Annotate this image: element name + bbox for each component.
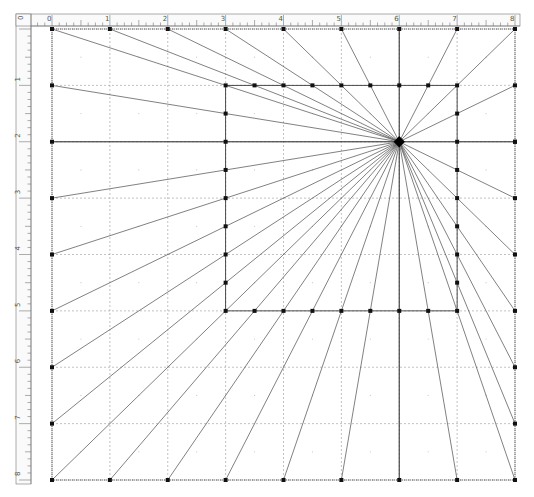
outer-frame-point	[397, 27, 401, 31]
grid-dot	[254, 113, 255, 114]
horizon-point	[513, 140, 517, 144]
grid-dot	[138, 338, 139, 339]
outer-frame-point	[50, 422, 54, 426]
grid-dot	[370, 338, 371, 339]
outer-frame-point	[224, 27, 228, 31]
grid-dot	[428, 338, 429, 339]
top-ruler-label: 0	[47, 15, 51, 23]
grid-dot	[485, 451, 486, 452]
grid-dot	[80, 169, 81, 170]
inner-rect-point	[397, 83, 401, 87]
left-ruler-label: 8	[14, 472, 22, 476]
inner-rect-point	[368, 309, 372, 313]
inner-rect-point	[455, 253, 459, 257]
inner-rect-point	[224, 196, 228, 200]
outer-frame-point	[513, 365, 517, 369]
inner-rect-point	[310, 83, 314, 87]
outer-frame-point	[50, 27, 54, 31]
outer-frame-point	[513, 83, 517, 87]
grid-dot	[196, 57, 197, 58]
grid-dot	[370, 282, 371, 283]
inner-rect-point	[224, 309, 228, 313]
left-ruler-label: 3	[14, 190, 22, 194]
grid-dot	[485, 338, 486, 339]
inner-rect-point	[397, 309, 401, 313]
grid-dot	[138, 451, 139, 452]
grid-dot	[196, 113, 197, 114]
grid-dot	[485, 169, 486, 170]
ruler-corner-label: 0	[17, 16, 25, 20]
top-ruler-label: 5	[336, 15, 340, 23]
grid-dot	[80, 57, 81, 58]
grid-dot	[370, 451, 371, 452]
grid-dot	[254, 57, 255, 58]
outer-frame-point	[50, 309, 54, 313]
inner-rect-point	[224, 83, 228, 87]
left-ruler-label: 5	[14, 302, 22, 306]
left-ruler-label: 4	[14, 246, 22, 251]
outer-frame-point	[50, 478, 54, 482]
inner-rect-point	[224, 140, 228, 144]
inner-rect-point	[368, 83, 372, 87]
top-ruler-label: 3	[221, 15, 225, 23]
grid-dot	[196, 282, 197, 283]
inner-rect-point	[426, 83, 430, 87]
outer-frame-point	[513, 253, 517, 257]
outer-frame-point	[166, 478, 170, 482]
grid-dot	[196, 395, 197, 396]
grid-dot	[312, 451, 313, 452]
grid-dot	[138, 113, 139, 114]
top-ruler-label: 7	[452, 15, 456, 23]
top-ruler-label: 4	[279, 15, 284, 23]
top-ruler-label: 2	[163, 15, 167, 23]
grid-dot	[80, 113, 81, 114]
outer-frame-point	[513, 478, 517, 482]
outer-frame-point	[455, 478, 459, 482]
outer-frame-point	[282, 478, 286, 482]
grid-dot	[370, 395, 371, 396]
outer-frame-point	[513, 27, 517, 31]
outer-frame-point	[513, 422, 517, 426]
grid-dot	[254, 338, 255, 339]
outer-frame-point	[50, 83, 54, 87]
inner-rect-point	[310, 309, 314, 313]
inner-rect-point	[426, 309, 430, 313]
inner-rect-point	[455, 168, 459, 172]
grid-dot	[485, 113, 486, 114]
inner-rect-point	[224, 168, 228, 172]
outer-frame-point	[513, 309, 517, 313]
grid-dot	[196, 169, 197, 170]
outer-frame-point	[108, 27, 112, 31]
grid-dot	[80, 395, 81, 396]
left-ruler-label: 1	[14, 77, 22, 81]
outer-frame-point	[50, 365, 54, 369]
outer-frame-point	[455, 27, 459, 31]
perspective-diagram: 001234567812345678	[0, 0, 534, 497]
grid-dot	[312, 338, 313, 339]
outer-frame-point	[513, 196, 517, 200]
top-ruler	[16, 14, 520, 26]
outer-frame-point	[166, 27, 170, 31]
grid-dot	[196, 226, 197, 227]
inner-rect-point	[282, 83, 286, 87]
inner-rect-point	[455, 112, 459, 116]
grid-dot	[428, 395, 429, 396]
grid-dot	[485, 282, 486, 283]
grid-dot	[196, 451, 197, 452]
outer-frame-point	[50, 196, 54, 200]
grid-dot	[80, 338, 81, 339]
inner-rect-point	[455, 140, 459, 144]
inner-rect-point	[455, 196, 459, 200]
grid-dot	[254, 395, 255, 396]
grid-dot	[138, 169, 139, 170]
grid-dot	[254, 451, 255, 452]
inner-rect-point	[224, 281, 228, 285]
inner-rect-point	[224, 112, 228, 116]
inner-rect-point	[455, 281, 459, 285]
grid-dot	[138, 282, 139, 283]
inner-rect-point	[282, 309, 286, 313]
outer-frame-point	[282, 27, 286, 31]
grid-dot	[254, 226, 255, 227]
outer-frame-point	[50, 140, 54, 144]
top-ruler-label: 1	[105, 15, 109, 23]
